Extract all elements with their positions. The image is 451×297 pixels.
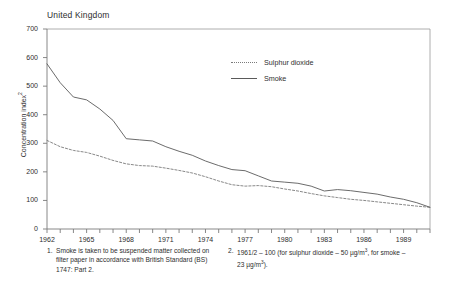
y-axis-label-text: Concentration index <box>20 95 27 157</box>
x-axis-tick-label: 1977 <box>225 236 265 243</box>
y-axis-tick-label: 0 <box>10 225 38 232</box>
footnote-1-number: 1. <box>47 246 53 255</box>
x-axis-tick-label: 1962 <box>27 236 67 243</box>
footnote-1-text: Smoke is taken to be suspended matter co… <box>47 246 212 274</box>
x-axis-tick-label: 1965 <box>67 236 107 243</box>
x-axis-tick-label: 1989 <box>384 236 424 243</box>
y-axis-tick-label: 400 <box>10 111 38 118</box>
footnote-2-number: 2. <box>228 246 234 255</box>
y-axis-tick-label: 500 <box>10 82 38 89</box>
data-series-group <box>47 64 430 207</box>
chart-container: United Kingdom Concentration index2 0100… <box>0 0 451 297</box>
y-axis-tick-label: 100 <box>10 196 38 203</box>
x-axis-tick-label: 1986 <box>344 236 384 243</box>
y-axis-tick-label: 700 <box>10 25 38 32</box>
legend-swatch-solid <box>231 78 257 79</box>
legend-swatch-dotted <box>231 62 257 63</box>
footnote-2: 2. 1961/2 – 100 (for sulphur dioxide – 5… <box>228 246 408 269</box>
x-axis-tick-label: 1974 <box>185 236 225 243</box>
legend-label: Smoke <box>264 74 286 83</box>
legend-label: Sulphur dioxide <box>264 58 314 67</box>
x-axis-tick-label: 1983 <box>304 236 344 243</box>
footnote-2-text: 1961/2 – 100 (for sulphur dioxide – 50 µ… <box>228 246 408 269</box>
y-axis-tick-label: 600 <box>10 54 38 61</box>
footnote-1: 1. Smoke is taken to be suspended matter… <box>47 246 212 274</box>
chart-title: United Kingdom <box>47 10 110 20</box>
x-axis-tick-label: 1971 <box>146 236 186 243</box>
y-axis-label-footnote-marker: 2 <box>17 92 23 95</box>
legend-item-sulphur-dioxide: Sulphur dioxide <box>231 58 314 67</box>
series-line-sulphur-dioxide <box>47 140 430 207</box>
legend-item-smoke: Smoke <box>231 74 286 83</box>
x-axis-tick-label: 1968 <box>106 236 146 243</box>
x-axis-tick-label: 1980 <box>265 236 305 243</box>
y-axis-tick-label: 300 <box>10 139 38 146</box>
y-axis-tick-label: 200 <box>10 168 38 175</box>
